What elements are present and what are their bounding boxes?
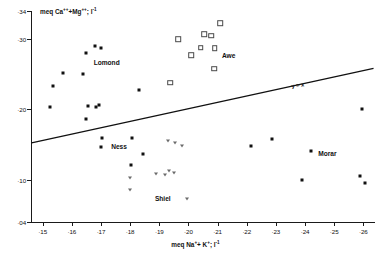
y-tick-label: ·30 xyxy=(7,36,26,43)
group-label-shiel: Shiel xyxy=(155,195,171,202)
data-point xyxy=(270,138,273,141)
data-point xyxy=(218,20,224,26)
data-point xyxy=(48,106,51,109)
x-tick xyxy=(276,222,277,226)
data-point xyxy=(309,149,312,152)
x-tick xyxy=(305,222,306,226)
x-tick-label: ·26 xyxy=(359,228,368,235)
data-point xyxy=(128,188,132,191)
trend-line xyxy=(31,11,375,222)
data-point xyxy=(185,197,189,200)
data-point xyxy=(168,80,174,86)
y-tick xyxy=(27,222,31,223)
data-point xyxy=(51,84,54,87)
x-tick xyxy=(188,222,189,226)
data-point xyxy=(202,31,208,37)
data-point xyxy=(82,73,85,76)
x-axis-line xyxy=(31,222,375,223)
x-tick xyxy=(363,222,364,226)
y-tick-label: ·34 xyxy=(7,8,26,15)
group-label-awe: Awe xyxy=(222,52,235,59)
data-point xyxy=(180,145,184,148)
x-tick-label: ·23 xyxy=(272,228,281,235)
data-point xyxy=(99,46,102,49)
data-point xyxy=(250,145,253,148)
x-tick-label: ·21 xyxy=(213,228,222,235)
data-point xyxy=(97,104,100,107)
x-tick-label: ·20 xyxy=(184,228,193,235)
x-tick xyxy=(218,222,219,226)
x-tick-label: ·18 xyxy=(126,228,135,235)
x-tick xyxy=(334,222,335,226)
group-label-ness: Ness xyxy=(111,143,127,150)
x-tick-label: ·22 xyxy=(242,228,251,235)
scatter-chart: meq Ca+++Mg++; l-1 meq Na++ K+; l-1 ·15·… xyxy=(0,0,391,253)
data-point xyxy=(175,36,181,42)
data-point xyxy=(208,33,214,39)
data-point xyxy=(163,173,167,176)
data-point xyxy=(128,177,132,180)
data-point xyxy=(129,164,132,167)
data-point xyxy=(86,104,89,107)
x-tick-label: ·19 xyxy=(155,228,164,235)
data-point xyxy=(166,140,170,143)
x-tick-label: ·15 xyxy=(38,228,47,235)
data-point xyxy=(301,178,304,181)
group-label-lomond: Lomond xyxy=(94,59,120,66)
x-tick xyxy=(159,222,160,226)
x-tick xyxy=(247,222,248,226)
y-tick-label: ·04 xyxy=(7,219,26,226)
data-point xyxy=(363,181,366,184)
data-point xyxy=(154,173,158,176)
x-tick xyxy=(130,222,131,226)
data-point xyxy=(85,118,88,121)
data-point xyxy=(173,142,177,145)
x-axis-title: meq Na++ K+; l-1 xyxy=(171,241,219,248)
data-point xyxy=(212,45,218,51)
x-tick-label: ·24 xyxy=(301,228,310,235)
x-tick xyxy=(72,222,73,226)
data-point xyxy=(189,53,195,59)
x-tick xyxy=(101,222,102,226)
data-point xyxy=(99,145,102,148)
y-tick-label: ·10 xyxy=(7,176,26,183)
data-point xyxy=(142,153,145,156)
data-point xyxy=(138,89,141,92)
data-point xyxy=(84,52,87,55)
data-point xyxy=(360,108,363,111)
data-point xyxy=(167,169,171,172)
data-point xyxy=(172,171,176,174)
x-tick xyxy=(43,222,44,226)
x-tick-label: ·16 xyxy=(67,228,76,235)
data-point xyxy=(359,174,362,177)
x-tick-label: ·25 xyxy=(330,228,339,235)
group-label-morar: Morar xyxy=(318,150,336,157)
data-point xyxy=(94,45,97,48)
data-point xyxy=(62,71,65,74)
data-point xyxy=(198,45,204,51)
plot-area: LomondAweNessShielMorary = x xyxy=(31,11,375,222)
data-point xyxy=(130,136,133,139)
data-point xyxy=(211,66,217,72)
y-tick-label: ·20 xyxy=(7,106,26,113)
x-tick-label: ·17 xyxy=(97,228,106,235)
data-point xyxy=(101,136,104,139)
